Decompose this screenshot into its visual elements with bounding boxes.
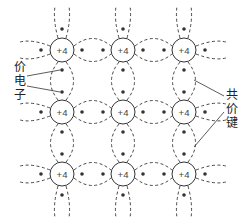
svg-text:+4: +4 bbox=[179, 169, 190, 180]
label-char: 共 bbox=[225, 88, 239, 102]
svg-text:+4: +4 bbox=[57, 45, 68, 56]
svg-text:+4: +4 bbox=[57, 107, 68, 118]
label-char: 价 bbox=[13, 60, 27, 74]
valence-electron bbox=[39, 48, 43, 52]
label-char: 价 bbox=[225, 102, 239, 116]
svg-text:+4: +4 bbox=[57, 169, 68, 180]
label-char: 电 bbox=[13, 74, 27, 88]
valence-electron bbox=[39, 172, 43, 176]
label-valence-electron: 价 电 子 bbox=[13, 60, 27, 102]
svg-text:+4: +4 bbox=[179, 107, 190, 118]
svg-text:+4: +4 bbox=[118, 107, 129, 118]
svg-text:+4: +4 bbox=[179, 45, 190, 56]
lattice-diagram: +4+4+4+4+4+4+4+4+4 bbox=[0, 0, 246, 224]
label-char: 键 bbox=[225, 116, 239, 130]
label-char: 子 bbox=[13, 88, 27, 102]
valence-electron bbox=[39, 110, 43, 114]
label-covalent-bond: 共 价 键 bbox=[225, 88, 239, 130]
svg-text:+4: +4 bbox=[118, 169, 129, 180]
svg-text:+4: +4 bbox=[118, 45, 129, 56]
